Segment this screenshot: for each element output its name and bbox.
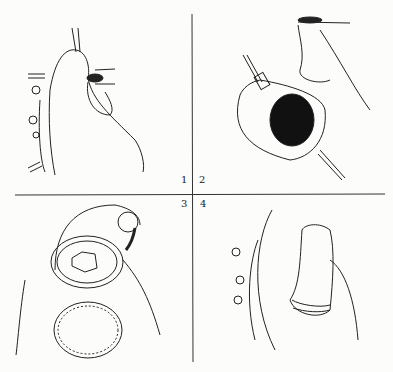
panel-label-3: 3 — [181, 198, 187, 209]
panel-3-drawing — [16, 205, 160, 358]
panel-4-drawing — [232, 210, 358, 350]
figure: 1 2 3 4 — [0, 0, 393, 372]
panel-1-drawing — [28, 28, 144, 175]
horizontal-divider — [15, 194, 385, 195]
panel-label-2: 2 — [199, 174, 205, 185]
panel-label-4: 4 — [200, 198, 206, 209]
vertical-divider — [192, 14, 193, 362]
illustration — [0, 0, 393, 372]
panel-label-1: 1 — [181, 174, 187, 185]
panel-2-drawing — [237, 17, 370, 180]
